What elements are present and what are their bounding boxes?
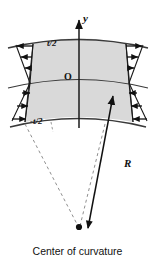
diagram-canvas bbox=[0, 0, 155, 268]
center-of-curvature-label: Center of curvature bbox=[0, 246, 155, 257]
top-fiber-label: t/2 bbox=[47, 39, 57, 48]
radial-dashed-tick-left bbox=[51, 122, 53, 132]
y-axis-label: y bbox=[83, 13, 88, 24]
bottom-fiber-label: -t/2 bbox=[30, 117, 43, 126]
origin-label: O bbox=[64, 72, 72, 82]
radial-dashed-line-right bbox=[80, 124, 105, 226]
center-of-curvature-point bbox=[76, 224, 82, 230]
radial-dashed-line-left bbox=[25, 124, 78, 226]
curved-beam-stress-diagram: y t/2 O -t/2 R Center of curvature bbox=[0, 0, 155, 268]
radius-label: R bbox=[124, 158, 131, 169]
